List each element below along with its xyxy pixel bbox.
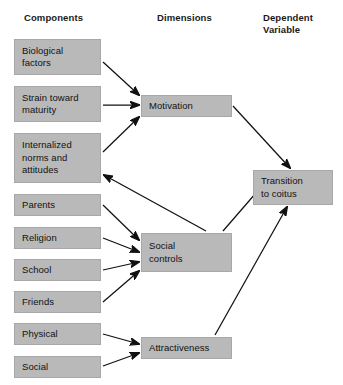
node-biological-factors[interactable]: Biological factors	[14, 39, 101, 75]
node-religion[interactable]: Religion	[14, 227, 101, 249]
arrow-physical-to-attractiveness	[103, 334, 139, 344]
node-internalized-norms-and-attitudes[interactable]: Internalized norms and attitudes	[14, 133, 101, 183]
node-motivation[interactable]: Motivation	[141, 95, 232, 117]
node-school[interactable]: School	[14, 259, 101, 281]
column-header-dependent-variable: Dependent Variable	[263, 12, 313, 35]
arrow-biological-factors-to-motivation	[103, 62, 139, 95]
node-social[interactable]: Social	[14, 356, 101, 378]
arrow-social-controls-to-internalized-norms	[104, 175, 206, 231]
node-transition-to-coitus[interactable]: Transition to coitus	[253, 170, 333, 205]
column-header-dimensions: Dimensions	[157, 12, 212, 24]
arrow-friends-to-social-controls	[103, 271, 139, 302]
node-attractiveness[interactable]: Attractiveness	[141, 337, 232, 359]
node-physical[interactable]: Physical	[14, 323, 101, 345]
node-parents[interactable]: Parents	[14, 194, 101, 216]
node-strain-toward-maturity[interactable]: Strain toward maturity	[14, 86, 101, 122]
diagram-canvas: Components Dimensions Dependent Variable…	[0, 0, 343, 385]
node-social-controls[interactable]: Social controls	[141, 233, 232, 272]
arrow-school-to-social-controls	[103, 262, 139, 270]
arrow-parents-to-social-controls	[103, 205, 139, 240]
node-friends[interactable]: Friends	[14, 291, 101, 313]
arrow-internalized-norms-to-motivation	[103, 117, 139, 152]
column-header-components: Components	[24, 12, 83, 24]
arrow-motivation-to-transition-to-coitus	[233, 106, 290, 168]
arrow-social-to-attractiveness	[103, 353, 139, 366]
arrow-religion-to-social-controls	[103, 238, 139, 252]
